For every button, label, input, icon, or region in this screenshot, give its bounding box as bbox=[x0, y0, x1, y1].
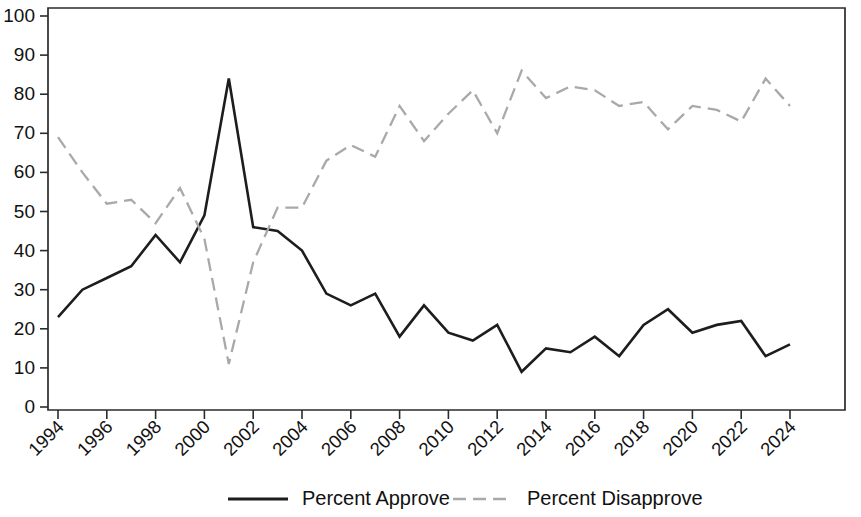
y-tick-label: 50 bbox=[14, 201, 35, 222]
legend-label-approve: Percent Approve bbox=[302, 487, 450, 509]
y-tick-label: 60 bbox=[14, 161, 35, 182]
y-tick-label: 70 bbox=[14, 122, 35, 143]
y-tick-label: 100 bbox=[3, 5, 35, 26]
y-tick-label: 40 bbox=[14, 240, 35, 261]
line-chart-figure: 0102030405060708090100 19941996199820002… bbox=[0, 0, 861, 517]
y-tick-label: 30 bbox=[14, 279, 35, 300]
legend-label-disapprove: Percent Disapprove bbox=[527, 487, 703, 509]
y-tick-label: 90 bbox=[14, 44, 35, 65]
chart-container: 0102030405060708090100 19941996199820002… bbox=[0, 0, 861, 517]
y-tick-label: 20 bbox=[14, 318, 35, 339]
y-tick-label: 0 bbox=[24, 396, 35, 417]
y-tick-label: 80 bbox=[14, 83, 35, 104]
y-tick-label: 10 bbox=[14, 357, 35, 378]
